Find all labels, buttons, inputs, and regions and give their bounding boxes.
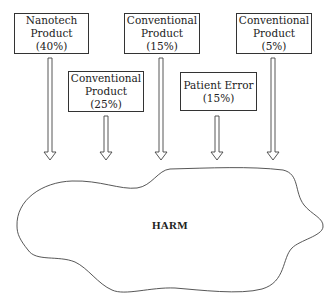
harm-label: HARM — [145, 219, 195, 231]
percentage-label: (15%) — [146, 40, 178, 53]
source-box-patient-error: Patient Error (15%) — [180, 72, 257, 111]
percentage-label: (25%) — [90, 98, 122, 111]
percentage-label: (15%) — [203, 92, 235, 105]
label-line: Conventional — [71, 72, 141, 85]
arrow-conventional-15 — [155, 58, 167, 160]
percentage-label: (5%) — [262, 40, 287, 53]
source-box-conventional-product-25: Conventional Product (25%) — [68, 71, 144, 112]
label-line: Product — [85, 85, 127, 98]
arrow-nanotech-40 — [44, 58, 56, 160]
arrow-conventional-25 — [100, 116, 112, 160]
label-line: Conventional — [127, 14, 197, 27]
source-box-conventional-product-15: Conventional Product (15%) — [124, 13, 200, 54]
label-line: Nanotech — [26, 14, 78, 27]
label-line: Patient Error — [183, 79, 253, 92]
source-box-conventional-product-5: Conventional Product (5%) — [236, 13, 312, 54]
label-line: Product — [253, 27, 295, 40]
label-line: Product — [141, 27, 183, 40]
label-line: Conventional — [239, 14, 309, 27]
percentage-label: (40%) — [36, 40, 68, 53]
label-line: Product — [31, 27, 73, 40]
arrow-conventional-5 — [267, 58, 279, 160]
arrow-patient-error-15 — [211, 116, 223, 160]
source-box-nanotech-product: Nanotech Product (40%) — [14, 13, 89, 54]
